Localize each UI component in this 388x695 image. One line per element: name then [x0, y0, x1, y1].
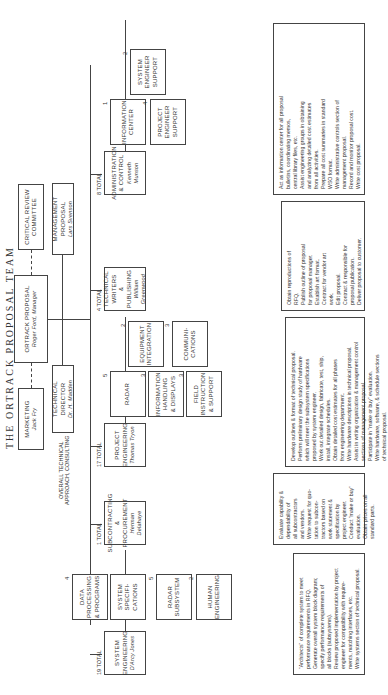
text-line: Handling — [162, 378, 170, 411]
text-line: Perform preliminary design study of hard… — [297, 323, 304, 461]
project-engineering-box: ProjectEngineeringThomas Tryon — [104, 423, 146, 467]
text-line: Prepare all cost summaries in standard — [320, 29, 327, 189]
text-line: Human — [207, 586, 215, 609]
subgroup-count: 5 — [102, 374, 108, 377]
text-line: Write hardware descriptions in technical… — [346, 323, 353, 461]
marketing-box: Marketing Jack Fry — [18, 388, 44, 450]
text-line: Support — [172, 107, 180, 137]
subgroup-count: 4 — [142, 102, 148, 105]
text-line: Subsystem — [174, 578, 182, 617]
text-line: from engineering department. — [339, 323, 346, 461]
text-line: "Architects" of complete system to meet — [298, 559, 305, 669]
management-proposal-title: Management Proposal — [52, 184, 67, 254]
text-line: work statement & — [327, 479, 334, 539]
text-line: proposal publication. — [349, 207, 356, 305]
group-total-label: 19 Total — [96, 650, 102, 675]
text-line: project engineer. — [341, 479, 348, 539]
text-line: specification by — [334, 479, 341, 539]
text-line: Work out detailed design, fabricate, tes… — [318, 323, 325, 461]
text-line: Edit proposal. — [335, 207, 342, 305]
subgroup-box: InformationHandling& Displays — [148, 371, 184, 417]
administration-duties: Act as information center for all propos… — [273, 23, 365, 195]
text-line: of technical proposal. — [381, 323, 388, 461]
text-line: Communi- — [183, 328, 191, 361]
text-line: Conduct "make or buy" — [348, 479, 355, 539]
text-line: & Control — [118, 155, 126, 192]
text-line: for proposal manager. — [307, 207, 314, 305]
group-lead-name: Kenneth Munson — [126, 152, 140, 194]
group-lead-name: Thomas Tryon — [129, 426, 136, 463]
group-total-label: 17 Total — [96, 442, 102, 467]
subgroup-count: 2 — [188, 577, 194, 580]
text-line: Develop outlines & format of technical p… — [290, 323, 297, 461]
text-line: specify performance requirements of — [319, 559, 326, 669]
text-line: & Procurement — [114, 498, 129, 547]
text-line: Data — [79, 589, 87, 605]
text-line: bulletins, coordinating memos, — [285, 29, 292, 189]
group-total-label: 4 Total — [96, 289, 102, 311]
text-line: Project — [114, 430, 122, 459]
subgroup-count: 3 — [178, 374, 184, 377]
text-line: Engineering — [122, 423, 130, 467]
text-line: dependability of — [285, 479, 292, 539]
marketing-name: Jack Fry — [31, 408, 38, 430]
marketing-title: Marketing — [24, 400, 32, 437]
text-line: ments, matching interfaces, etc. — [347, 559, 354, 669]
text-line: Generate overall system block diagram; — [312, 559, 319, 669]
group-lead-name: Herman Delahaye — [129, 502, 143, 544]
text-line: Radar — [167, 586, 175, 608]
subgroup-box: Radar — [110, 371, 146, 417]
subgroup-box: FieldInstruction& Support — [186, 371, 222, 417]
text-line: standard parts. — [369, 479, 376, 539]
subgroup-box: SystemEngineerSupport — [130, 49, 166, 95]
text-line: Radar — [124, 383, 132, 405]
subcontracting-duties: Evaluate capability &dependability ofall… — [273, 473, 365, 545]
text-line: Center — [128, 109, 136, 135]
group-total-label: 1 Total — [96, 523, 102, 545]
text-line: Write administrative controls section of — [334, 29, 341, 189]
text-line: Engineering — [122, 631, 130, 675]
text-line: and analyzing detailed cost estimates — [306, 29, 313, 189]
text-line: Administration — [111, 146, 119, 200]
text-line: cations — [132, 583, 140, 611]
text-line: Contract for vendor art — [321, 207, 328, 305]
text-line: Obtain reproductions of — [286, 207, 293, 305]
technical-writers-box: Technical Writers& PublishingWilliam Gre… — [104, 267, 146, 311]
text-line: RFQ. — [293, 207, 300, 305]
subgroup-count: 2 — [122, 52, 128, 55]
text-line: Contract & responsible for — [342, 207, 349, 305]
consulting-note: Overall Technical Approach, Consulting — [58, 435, 70, 505]
subgroup-box: SystemSpecifi-cations — [110, 574, 146, 620]
group-lead-name: William Greenwood — [133, 268, 147, 310]
text-line: Information — [121, 100, 129, 144]
text-line: from all activities. — [313, 29, 320, 189]
text-line: & Displays — [170, 376, 178, 413]
text-line: Record and monitor proposal cost. — [348, 29, 355, 189]
text-line: Obtain detailed cost estimates for all p… — [332, 323, 339, 461]
technical-director-name: Dr. H. Madden — [67, 380, 74, 418]
subgroup-count: 1 — [102, 102, 108, 105]
subgroup-box: DataProcessing& Programs — [72, 574, 108, 620]
text-line: Engineer — [144, 56, 152, 89]
text-line: Write cost proposal. — [355, 29, 362, 189]
subcontracting-box: Subcontracting& ProcurementHerman Delaha… — [104, 501, 146, 545]
text-line: Project — [157, 107, 165, 136]
critical-review-title: Critical Review — [24, 189, 32, 244]
ortrack-proposal-box: Ortrack Proposal Roger Ford, Manager — [14, 275, 48, 363]
text-line: Equipment — [139, 325, 147, 362]
text-line: Obtain prices on all — [362, 479, 369, 539]
text-line: engineer for compatibility with require- — [340, 559, 347, 669]
project-engineering-duties: Develop outlines & format of technical p… — [285, 317, 365, 467]
text-line: WSO format. — [327, 29, 334, 189]
text-line: Participate in "make or buy" evaluation. — [367, 323, 374, 461]
text-line: Act as information center for all propos… — [278, 29, 285, 189]
text-line: management proposal. — [341, 29, 348, 189]
critical-review-name: Committee — [31, 198, 39, 236]
text-line: Support — [152, 57, 160, 87]
text-line: sections of management proposal. — [360, 323, 367, 461]
group-total-label: 8 Total — [96, 173, 102, 195]
text-line: Evaluate capability & — [278, 479, 285, 539]
text-line: & Support — [208, 376, 216, 412]
text-line: Engineer — [164, 106, 172, 139]
